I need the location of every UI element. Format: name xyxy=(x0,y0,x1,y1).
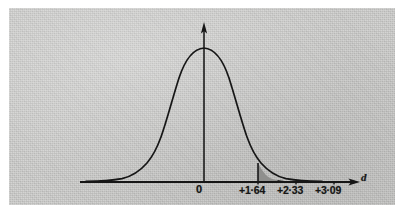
normal-distribution-chart xyxy=(0,0,404,213)
shaded-region-one-percent xyxy=(204,48,330,182)
shaded-tail-regions xyxy=(204,48,330,182)
figure-root: 0 +1·64 +2·33 +3·09 d xyxy=(0,0,404,213)
ordinate-axis xyxy=(201,22,207,182)
x-axis-label-d: d xyxy=(361,172,367,183)
critical-value-label-233: +2·33 xyxy=(277,185,303,196)
shaded-region-five-percent xyxy=(204,48,330,182)
critical-value-label-309: +3·09 xyxy=(315,185,341,196)
critical-value-label-164: +1·64 xyxy=(239,185,265,196)
origin-label: 0 xyxy=(196,184,202,195)
